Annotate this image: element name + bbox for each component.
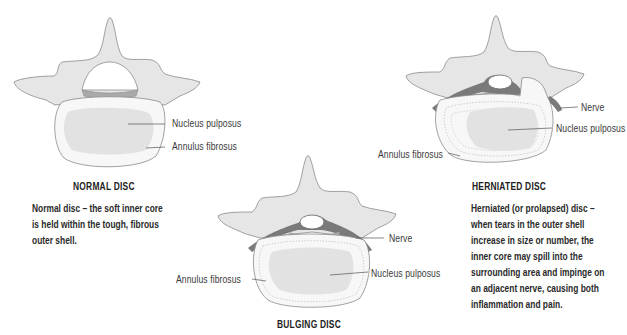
normal-vertebra-bone <box>14 18 200 105</box>
herniated-desc-line: when tears in the outer shell <box>471 216 604 232</box>
normal-disc-title: NORMAL DISC <box>73 180 135 192</box>
bulging-nucleus-label: Nucleus pulposus <box>371 267 440 279</box>
normal-desc-line: outer shell. <box>32 232 163 248</box>
herniated-desc-line: inner core may spill into the <box>471 248 604 264</box>
herniated-nucleus-label: Nucleus pulposus <box>556 122 625 134</box>
normal-disc-description: Normal disc – the soft inner core is hel… <box>32 200 163 248</box>
normal-desc-line: Normal disc – the soft inner core <box>32 200 163 216</box>
normal-nucleus <box>64 108 154 155</box>
bulging-disc-title: BULGING DISC <box>277 318 341 330</box>
herniated-desc-line: Herniated (or prolapsed) disc – <box>471 200 604 216</box>
bulging-annulus-label: Annulus fibrosus <box>176 273 241 285</box>
normal-nucleus-label: Nucleus pulposus <box>172 117 241 129</box>
bulging-nerve-label: Nerve <box>389 232 412 244</box>
bulging-spinal-canal <box>300 215 324 229</box>
herniated-disc-title: HERNIATED DISC <box>472 180 546 192</box>
herniated-desc-line: an adjacent nerve, causing both <box>471 280 604 296</box>
herniated-desc-line: inflammation and pain. <box>471 296 604 312</box>
herniated-disc-illustration <box>406 16 584 163</box>
normal-desc-line: is held within the tough, fibrous <box>32 216 163 232</box>
herniated-disc-description: Herniated (or prolapsed) disc – when tea… <box>471 200 604 312</box>
normal-annulus-label: Annulus fibrosus <box>172 140 237 152</box>
herniated-desc-line: surrounding area and impinge on <box>471 264 604 280</box>
bulging-nucleus <box>269 248 354 295</box>
herniated-desc-line: increase in size or number, the <box>471 232 604 248</box>
herniated-spinal-canal <box>488 75 512 89</box>
herniated-nerve-label: Nerve <box>581 101 604 113</box>
bulging-disc-illustration <box>218 156 396 308</box>
herniated-annulus-label: Annulus fibrosus <box>378 148 443 160</box>
